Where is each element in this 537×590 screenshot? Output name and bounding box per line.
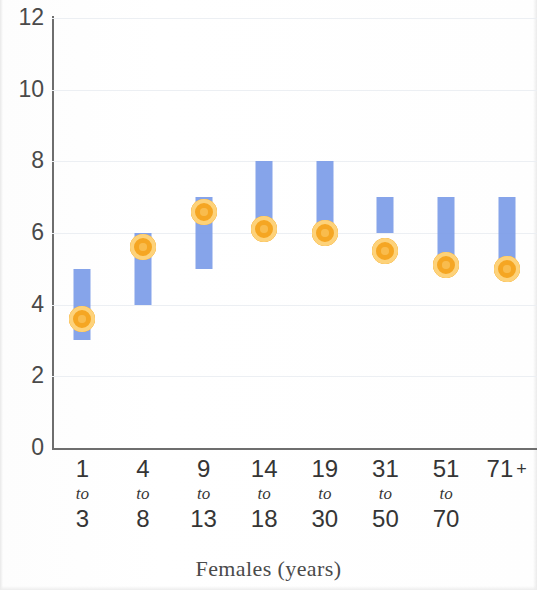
x-axis-category-label: 71+: [479, 455, 535, 483]
x-axis-category-labels: 1to34to89to1314to1819to3031to5051to7071+: [52, 455, 537, 545]
x-axis-category-label: 19to30: [297, 455, 353, 533]
y-axis-tick-label: 2: [0, 364, 44, 387]
x-category-connector: to: [115, 483, 171, 505]
x-category-high: 3: [54, 505, 110, 533]
point-marker: [251, 216, 277, 242]
point-marker-core: [78, 315, 86, 323]
data-point-group: [418, 18, 474, 448]
x-category-connector: to: [297, 483, 353, 505]
point-marker-core: [139, 243, 147, 251]
x-category-connector: to: [357, 483, 413, 505]
x-category-high: 8: [115, 505, 171, 533]
data-point-group: [115, 18, 171, 448]
x-category-connector: to: [176, 483, 232, 505]
x-category-low: 19: [297, 455, 353, 483]
point-marker-core: [260, 225, 268, 233]
x-axis-category-label: 31to50: [357, 455, 413, 533]
plus-sign: +: [516, 459, 527, 479]
y-axis-tick-labels: 121086420: [0, 18, 44, 448]
x-axis-line: [52, 448, 537, 450]
y-axis-tick-label: 4: [0, 293, 44, 316]
point-marker: [312, 220, 338, 246]
point-marker-core: [442, 261, 450, 269]
y-axis-tick-label: 10: [0, 78, 44, 101]
x-category-low: 51: [418, 455, 474, 483]
data-point-group: [54, 18, 110, 448]
plot-area: [52, 18, 537, 448]
x-category-low: 31: [357, 455, 413, 483]
point-marker: [191, 199, 217, 225]
y-axis-tick-label: 12: [0, 6, 44, 29]
point-marker: [69, 306, 95, 332]
point-marker: [372, 238, 398, 264]
x-category-low: 1: [54, 455, 110, 483]
point-marker: [433, 252, 459, 278]
x-category-high: 13: [176, 505, 232, 533]
x-category-low: 9: [176, 455, 232, 483]
data-point-group: [357, 18, 413, 448]
data-point-group: [176, 18, 232, 448]
x-axis-category-label: 14to18: [236, 455, 292, 533]
x-category-connector: to: [418, 483, 474, 505]
x-category-low: 4: [115, 455, 171, 483]
y-axis-tick-label: 6: [0, 221, 44, 244]
range-bar: [377, 197, 394, 233]
x-axis-category-label: 51to70: [418, 455, 474, 533]
point-marker: [130, 234, 156, 260]
chart-figure: 121086420 1to34to89to1314to1819to3031to5…: [0, 0, 537, 590]
y-axis-tick-label: 8: [0, 149, 44, 172]
x-category-high: 50: [357, 505, 413, 533]
point-marker-core: [381, 247, 389, 255]
x-axis-title: Females (years): [0, 556, 537, 582]
x-axis-category-label: 4to8: [115, 455, 171, 533]
x-category-low: 14: [236, 455, 292, 483]
data-point-group: [479, 18, 535, 448]
x-category-high: 70: [418, 505, 474, 533]
point-marker-core: [503, 265, 511, 273]
x-category-high: 18: [236, 505, 292, 533]
data-point-group: [236, 18, 292, 448]
x-category-connector: to: [54, 483, 110, 505]
y-axis-tick-label: 0: [0, 436, 44, 459]
x-axis-category-label: 1to3: [54, 455, 110, 533]
x-category-connector: to: [236, 483, 292, 505]
data-point-group: [297, 18, 353, 448]
x-category-high: 30: [297, 505, 353, 533]
point-marker-core: [321, 229, 329, 237]
x-axis-category-label: 9to13: [176, 455, 232, 533]
x-category-low: 71+: [479, 455, 535, 483]
scan-edge-bottom: [0, 586, 537, 590]
point-marker: [494, 256, 520, 282]
point-marker-core: [200, 208, 208, 216]
